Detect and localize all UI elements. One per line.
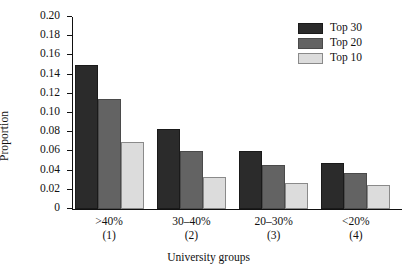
y-axis-tick-label: 0 — [54, 202, 60, 214]
y-axis-tick: 0.20 — [67, 16, 72, 17]
legend-item: Top 30 — [298, 21, 362, 35]
y-axis-tick-label: 0.02 — [40, 183, 60, 195]
legend-swatch — [298, 23, 323, 34]
bar — [75, 65, 98, 209]
bar — [157, 129, 180, 209]
bar — [121, 142, 144, 209]
y-axis-tick-label: 0.18 — [40, 29, 60, 41]
y-axis-tick-label: 0.06 — [40, 145, 60, 157]
legend-swatch — [298, 53, 323, 64]
bar — [262, 165, 285, 209]
y-axis-tick: 0 — [67, 208, 72, 209]
legend-label: Top 20 — [330, 37, 362, 49]
x-axis-category-range: 20–30% — [229, 214, 319, 228]
y-axis-tick-label: 0.12 — [40, 87, 60, 99]
y-axis-tick: 0.18 — [67, 35, 72, 36]
y-axis-tick-label: 0.20 — [40, 10, 60, 22]
x-axis-category-index: (2) — [146, 228, 236, 242]
y-axis-tick-label: 0.08 — [40, 125, 60, 137]
x-axis-category-range: 30–40% — [146, 214, 236, 228]
legend-label: Top 30 — [330, 22, 362, 34]
x-axis-category-index: (3) — [229, 228, 319, 242]
x-axis-line — [72, 209, 402, 210]
x-axis-title: University groups — [0, 251, 417, 263]
y-axis-tick: 0.06 — [67, 150, 72, 151]
legend-item: Top 20 — [298, 36, 362, 50]
y-axis-tick-label: 0.10 — [40, 106, 60, 118]
bar — [98, 99, 121, 209]
x-axis-category-index: (4) — [311, 228, 401, 242]
y-axis-title: Proportion — [0, 76, 10, 196]
y-axis-tick: 0.02 — [67, 189, 72, 190]
x-axis-category: <20%(4) — [311, 214, 401, 243]
legend-item: Top 10 — [298, 51, 362, 65]
y-axis-tick: 0.14 — [67, 74, 72, 75]
bar — [344, 173, 367, 209]
bar — [180, 151, 203, 209]
x-axis-category: 20–30%(3) — [229, 214, 319, 243]
bar-chart-figure: Proportion 0.200.180.160.140.120.100.080… — [0, 0, 417, 271]
y-axis-tick-label: 0.04 — [40, 164, 60, 176]
x-axis-category-index: (1) — [64, 228, 154, 242]
legend-swatch — [298, 38, 323, 49]
bar-group — [157, 17, 226, 209]
x-axis-category-range: <20% — [311, 214, 401, 228]
y-axis-tick: 0.10 — [67, 112, 72, 113]
y-axis-tick: 0.08 — [67, 131, 72, 132]
bar — [367, 185, 390, 209]
bar-group — [75, 17, 144, 209]
bar — [285, 183, 308, 209]
y-axis-tick: 0.12 — [67, 93, 72, 94]
chart-legend: Top 30Top 20Top 10 — [298, 21, 362, 66]
y-axis-tick: 0.16 — [67, 54, 72, 55]
x-axis-category: >40%(1) — [64, 214, 154, 243]
bar — [203, 177, 226, 209]
bar — [239, 151, 262, 209]
y-axis-tick-label: 0.14 — [40, 68, 60, 80]
bar — [321, 163, 344, 209]
x-axis-category-range: >40% — [64, 214, 154, 228]
x-axis-category: 30–40%(2) — [146, 214, 236, 243]
legend-label: Top 10 — [330, 52, 362, 64]
y-axis-tick: 0.04 — [67, 170, 72, 171]
y-axis-tick-label: 0.16 — [40, 49, 60, 61]
